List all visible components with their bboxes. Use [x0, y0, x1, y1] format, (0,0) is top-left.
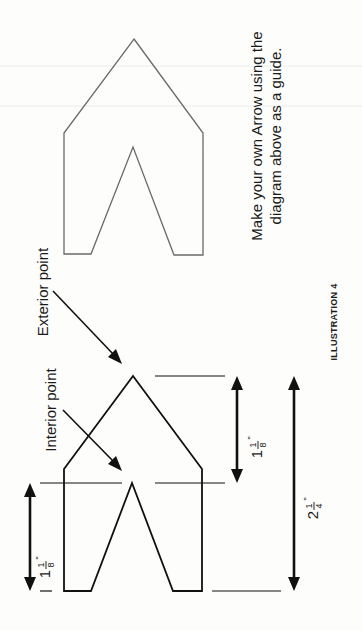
illustration-canvas: Exterior point Interior point Make your … — [0, 0, 362, 631]
arrowhead-down-icon — [231, 469, 243, 483]
arrowhead-up-icon — [288, 376, 300, 390]
inch-mark: " — [302, 497, 312, 500]
inch-mark: " — [246, 436, 256, 439]
arrowhead-down-icon — [288, 577, 300, 591]
arrowhead-up-icon — [24, 483, 36, 497]
fraction-whole: 2 — [304, 511, 321, 519]
template-arrow-outline — [64, 39, 203, 255]
fraction-denominator: 4 — [314, 503, 324, 508]
arrowhead-up-icon — [231, 376, 243, 390]
exterior-point-label: Exterior point — [34, 247, 51, 336]
arrowhead-down-icon — [24, 577, 36, 591]
fraction-denominator: 8 — [46, 562, 56, 567]
interior-point-label: Interior point — [42, 367, 59, 451]
fraction-numerator: 1 — [304, 503, 314, 508]
total-length-label: 2 1 4 " — [302, 497, 324, 519]
fraction-denominator: 8 — [258, 442, 268, 447]
fraction-numerator: 1 — [248, 442, 258, 447]
fraction-numerator: 1 — [36, 562, 46, 567]
notch-depth-dimension-arrow — [24, 483, 36, 591]
head-length-dimension-arrow — [231, 376, 243, 483]
fraction-whole: 1 — [248, 450, 265, 458]
fraction-whole: 1 — [36, 570, 53, 578]
instruction-text-line1: Make your own Arrow using the — [248, 31, 265, 240]
inch-mark: " — [34, 556, 44, 559]
head-length-label: 1 1 8 " — [246, 436, 268, 458]
notch-depth-label: 1 1 8 " — [34, 556, 56, 578]
instruction-text-line2: diagram above as a guide. — [267, 48, 284, 225]
interior-point-pointer — [63, 410, 122, 471]
total-length-dimension-arrow — [288, 376, 300, 591]
illustration-caption: ILLUSTRATION 4 — [329, 283, 339, 360]
exterior-point-pointer — [53, 291, 122, 364]
